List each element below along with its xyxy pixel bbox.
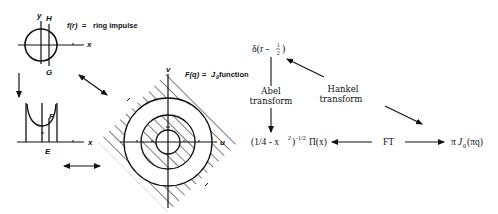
bessel-argument: (πq) (467, 137, 483, 148)
ring-impulse-plot: y H G x f(r) = ring impulse (18, 11, 138, 77)
ft-label: FT (383, 137, 394, 147)
abel-label-line1: Abel (260, 86, 281, 96)
hankel-label-line2: transform (320, 94, 363, 104)
close-paren: ) (282, 43, 285, 55)
v-axis-label: v (166, 65, 171, 74)
bessel-subscript: 0 (463, 143, 466, 149)
diagram-canvas: y H G x f(r) = ring impulse F E x (0, 0, 498, 214)
fraction-denominator: 2 (277, 50, 280, 56)
ring-impulse-label: ring impulse (93, 21, 138, 30)
F-q-label: F(q) (185, 70, 200, 79)
close-paren: ) (292, 137, 295, 148)
equals-sign: = (82, 21, 87, 30)
base-expr: (1/4 - x (251, 137, 279, 148)
x-axis-label: x (86, 40, 92, 49)
fraction-numerator: 1 (277, 42, 280, 48)
function-label: function (219, 70, 249, 79)
abel-result-node: (1/4 - x 2 ) -1/2 Π(x) (251, 135, 327, 148)
equals-sign: = (202, 70, 207, 79)
bessel-result-node: π J 0 (πq) (451, 137, 483, 149)
label-E: E (45, 147, 51, 156)
f-r-label: f(r) (67, 21, 78, 30)
hankel-label-line1: Hankel (328, 84, 359, 94)
hankel-arrow-down (385, 106, 422, 124)
delta-expression: δ(r - (252, 43, 269, 55)
abel-label-line2: transform (250, 96, 293, 106)
hatch-mark (205, 183, 208, 186)
projection-plot: F E x (17, 103, 93, 156)
label-G: G (46, 68, 52, 77)
half-exponent: -1/2 (296, 135, 306, 141)
delta-ring-node: δ(r - 1 2 ) (252, 42, 285, 56)
hatch-mark (127, 98, 130, 101)
square-exponent: 2 (288, 135, 291, 141)
pi-symbol: π (451, 137, 456, 147)
arrow-diagonal-ring-to-fourier (79, 75, 107, 95)
y-axis-label: y (36, 11, 42, 20)
transform-diagram: δ(r - 1 2 ) Abel transform Hankel transf… (250, 42, 483, 149)
label-H: H (46, 14, 52, 23)
u-axis-label: u (220, 138, 225, 147)
rect-function: Π(x) (309, 137, 327, 148)
fourier-plane-plot: v u F(q) = J 0 function (98, 65, 249, 212)
hankel-arrow-up (287, 59, 324, 77)
x-axis-label: x (87, 138, 93, 147)
